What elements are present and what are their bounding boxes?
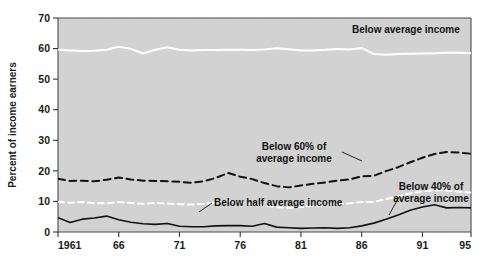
x-axis-ticks: 196166717681869195 bbox=[58, 232, 471, 251]
below-60pct-label: Below 60% ofaverage income bbox=[256, 141, 332, 164]
y-tick-label: 70 bbox=[38, 12, 50, 24]
below-half-average-label: Below half average income bbox=[214, 197, 343, 208]
y-tick-label: 30 bbox=[38, 134, 50, 146]
y-tick-label: 40 bbox=[38, 103, 50, 115]
x-tick-label: 66 bbox=[113, 239, 125, 251]
x-tick-label: 1961 bbox=[58, 239, 82, 251]
below-average-income-label: Below average income bbox=[352, 24, 460, 35]
y-tick-label: 10 bbox=[38, 195, 50, 207]
y-tick-label: 60 bbox=[38, 42, 50, 54]
y-axis-ticks: 010203040506070 bbox=[38, 12, 58, 238]
x-tick-label: 86 bbox=[356, 239, 368, 251]
y-tick-label: 50 bbox=[38, 73, 50, 85]
x-tick-label: 71 bbox=[174, 239, 186, 251]
chart-figure: 010203040506070 196166717681869195 Perce… bbox=[0, 0, 494, 264]
x-tick-label: 95 bbox=[459, 239, 471, 251]
line-chart: 010203040506070 196166717681869195 Perce… bbox=[0, 0, 494, 264]
x-tick-label: 91 bbox=[417, 239, 429, 251]
y-tick-label: 0 bbox=[44, 226, 50, 238]
y-axis-title: Percent of income earners bbox=[7, 62, 18, 188]
below-40pct-label: Below 40% ofaverage income bbox=[393, 181, 469, 204]
x-tick-label: 76 bbox=[234, 239, 246, 251]
y-tick-label: 20 bbox=[38, 165, 50, 177]
x-tick-label: 81 bbox=[295, 239, 307, 251]
